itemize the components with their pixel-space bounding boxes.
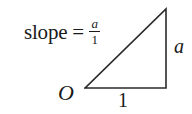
horizontal-leg-label: 1 bbox=[118, 90, 128, 110]
slope-figure: slope = a 1 O a 1 bbox=[0, 0, 192, 114]
slope-word: slope bbox=[24, 22, 67, 43]
equals-sign: = bbox=[72, 22, 84, 43]
origin-label: O bbox=[58, 82, 74, 104]
slope-equation: slope = a 1 bbox=[24, 18, 100, 47]
vertical-leg-label: a bbox=[174, 36, 184, 56]
fraction-numerator: a bbox=[90, 17, 99, 30]
fraction-denominator: 1 bbox=[90, 33, 99, 46]
slope-fraction: a 1 bbox=[89, 17, 100, 46]
